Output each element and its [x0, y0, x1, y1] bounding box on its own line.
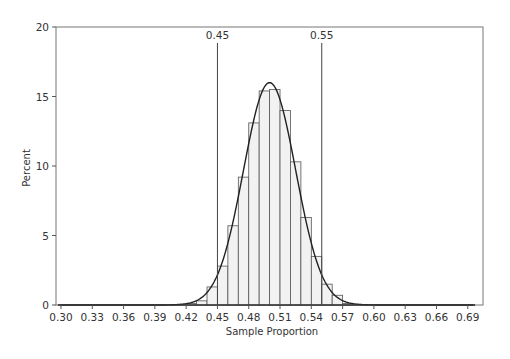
x-tick-label: 0.63: [393, 311, 416, 323]
reference-line-label: 0.55: [310, 29, 333, 41]
histogram-bar: [311, 256, 321, 305]
y-tick-label: 20: [36, 21, 49, 33]
x-tick-label: 0.45: [206, 311, 229, 323]
y-axis-title: Percent: [21, 149, 32, 187]
x-tick-label: 0.51: [268, 311, 291, 323]
histogram-bar: [270, 90, 280, 305]
histogram-bar: [259, 91, 269, 305]
histogram-bar: [238, 177, 248, 305]
x-tick-label: 0.30: [49, 311, 72, 323]
histogram-bar: [280, 110, 290, 305]
x-tick-label: 0.60: [362, 311, 385, 323]
histogram-bar: [301, 217, 311, 305]
x-tick-label: 0.54: [300, 311, 324, 323]
x-tick-label: 0.48: [237, 311, 260, 323]
y-tick-label: 5: [42, 230, 49, 242]
histogram-bar: [249, 123, 259, 305]
x-tick-label: 0.66: [425, 311, 449, 323]
histogram-bar: [322, 284, 332, 305]
y-tick-label: 0: [42, 299, 49, 311]
histogram-chart: 0.450.55 0.300.330.360.390.420.450.480.5…: [0, 0, 510, 359]
x-tick-label: 0.33: [81, 311, 104, 323]
x-axis-title: Sample Proportion: [226, 326, 318, 337]
histogram-bar: [290, 162, 300, 305]
x-tick-label: 0.57: [331, 311, 354, 323]
y-tick-label: 10: [36, 160, 49, 172]
x-tick-label: 0.69: [456, 311, 479, 323]
x-tick-label: 0.36: [112, 311, 136, 323]
x-tick-label: 0.42: [174, 311, 197, 323]
y-tick-label: 15: [36, 91, 49, 103]
x-tick-label: 0.39: [143, 311, 166, 323]
reference-line-label: 0.45: [206, 29, 229, 41]
